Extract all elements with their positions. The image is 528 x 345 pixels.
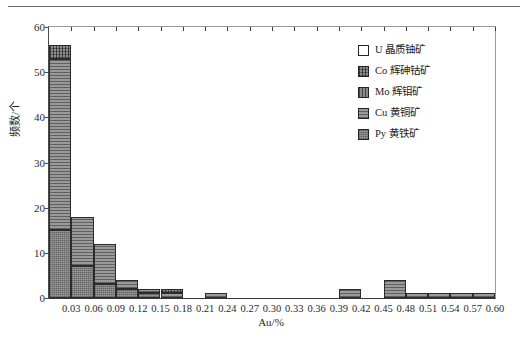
bar-segment [205, 293, 227, 298]
y-axis-tick-mark [45, 27, 49, 28]
top-divider-rule [8, 6, 520, 7]
bar-segment [94, 244, 116, 285]
x-axis-tick-label: 0.45 [374, 304, 392, 315]
x-axis-tick-label: 0.06 [84, 304, 102, 315]
legend-item-label: U 晶质铀矿 [375, 45, 425, 56]
x-axis-tick-mark [450, 27, 451, 31]
legend-swatch-icon [358, 108, 369, 119]
x-axis-tick-mark [161, 27, 162, 31]
x-axis-tick-label: 0.36 [307, 304, 325, 315]
x-axis-title: Au/% [48, 316, 494, 328]
x-axis-tick-mark [138, 27, 139, 31]
bar-segment [49, 59, 71, 231]
legend-item: U 晶质铀矿 [358, 40, 486, 61]
bar-segment [384, 280, 406, 298]
x-axis-tick-label: 0.24 [218, 304, 236, 315]
y-axis-tick-label: 20 [34, 202, 45, 213]
y-axis-tick-label: 40 [34, 112, 45, 123]
legend: U 晶质铀矿Co 辉砷钴矿Mo 辉钼矿Cu 黄铜矿Py 黄铁矿 [358, 40, 486, 145]
x-axis-tick-mark [294, 27, 295, 31]
bar-segment [161, 289, 183, 294]
x-axis-tick-mark [227, 27, 228, 31]
x-axis-tick-mark [71, 27, 72, 31]
legend-swatch-icon [358, 45, 369, 56]
y-axis-tick-mark [45, 253, 49, 254]
y-axis-tick-mark [45, 208, 49, 209]
y-axis-tick-mark [45, 163, 49, 164]
x-axis-tick-label: 0.33 [285, 304, 303, 315]
bar-segment [138, 293, 160, 298]
x-axis-tick-label: 0.42 [352, 304, 370, 315]
legend-item: Co 辉砷钴矿 [358, 61, 486, 82]
x-axis-tick-mark [361, 27, 362, 31]
bar-segment [49, 45, 71, 59]
legend-item-label: Cu 黄铜矿 [375, 108, 420, 119]
legend-item-label: Mo 辉钼矿 [375, 87, 422, 98]
bar-segment [116, 289, 138, 298]
x-axis-tick-mark [116, 27, 117, 31]
chart-page: 01020304050600.030.060.090.120.150.180.2… [0, 0, 528, 345]
x-axis-tick-mark [317, 27, 318, 31]
y-axis-tick-label: 10 [34, 247, 45, 258]
y-axis-title: 频数/个 [6, 101, 22, 137]
y-axis-tick-mark [45, 117, 49, 118]
x-axis-tick-mark [205, 27, 206, 31]
x-axis-tick-label: 0.18 [174, 304, 192, 315]
x-axis-tick-label: 0.57 [464, 304, 482, 315]
x-axis-tick-label: 0.12 [129, 304, 147, 315]
bar-segment [428, 293, 450, 298]
legend-swatch-icon [358, 87, 369, 98]
y-axis-tick-mark [45, 298, 49, 299]
bar-segment [94, 284, 116, 298]
x-axis-tick-label: 0.39 [330, 304, 348, 315]
bar-segment [406, 293, 428, 298]
bar-segment [473, 293, 495, 298]
legend-item: Mo 辉钼矿 [358, 82, 486, 103]
x-axis-tick-label: 0.15 [151, 304, 169, 315]
x-axis-tick-mark [406, 27, 407, 31]
x-axis-tick-mark [339, 27, 340, 31]
x-axis-tick-label: 0.03 [62, 304, 80, 315]
legend-item: Cu 黄铜矿 [358, 103, 486, 124]
legend-item-label: Py 黄铁矿 [375, 129, 419, 140]
legend-swatch-icon [358, 129, 369, 140]
x-axis-tick-mark [94, 27, 95, 31]
x-axis-tick-label: 0.27 [241, 304, 259, 315]
x-axis-tick-label: 0.51 [419, 304, 437, 315]
y-axis-tick-label: 60 [34, 22, 45, 33]
bar-segment [450, 293, 472, 298]
x-axis-tick-label: 0.54 [441, 304, 459, 315]
bar-segment [49, 230, 71, 298]
y-axis-tick-label: 50 [34, 67, 45, 78]
bar-segment [116, 280, 138, 289]
bar-segment [71, 217, 93, 267]
x-axis-tick-mark [495, 27, 496, 31]
bar-segment [339, 289, 361, 298]
bar-segment [161, 293, 183, 298]
y-axis-tick-label: 30 [34, 157, 45, 168]
bar-segment [71, 266, 93, 298]
x-axis-tick-label: 0.21 [196, 304, 214, 315]
x-axis-tick-mark [272, 27, 273, 31]
bar-segment [138, 289, 160, 294]
x-axis-tick-mark [250, 27, 251, 31]
legend-item: Py 黄铁矿 [358, 124, 486, 145]
legend-swatch-icon [358, 66, 369, 77]
x-axis-tick-mark [183, 27, 184, 31]
x-axis-tick-mark [384, 27, 385, 31]
x-axis-tick-label: 0.09 [107, 304, 125, 315]
x-axis-tick-mark [473, 27, 474, 31]
x-axis-tick-label: 0.60 [486, 304, 504, 315]
x-axis-tick-mark [428, 27, 429, 31]
legend-item-label: Co 辉砷钴矿 [375, 66, 430, 77]
y-axis-tick-mark [45, 72, 49, 73]
x-axis-tick-label: 0.48 [397, 304, 415, 315]
x-axis-tick-label: 0.30 [263, 304, 281, 315]
